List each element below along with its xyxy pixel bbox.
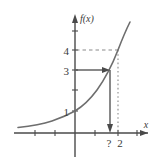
y-tick-label-3: 3 — [64, 65, 70, 77]
x-axis-arrowhead — [140, 130, 148, 136]
x-axis-title: x — [143, 119, 149, 130]
y-tick-label-1: 1 — [64, 106, 70, 118]
y-axis-arrowhead — [72, 14, 78, 23]
axes-group — [14, 14, 148, 157]
vertical-arrow-to-unknown-x — [107, 70, 113, 133]
vertical-arrowhead — [107, 124, 113, 133]
horizontal-arrow-from-3 — [76, 67, 110, 73]
x-tick-label-2: 2 — [117, 137, 123, 149]
y-tick-label-4: 4 — [64, 45, 70, 57]
exponential-function-figure: 4 3 1 ? 2 f(x) x — [0, 0, 166, 168]
graph-canvas: 4 3 1 ? 2 f(x) x — [0, 0, 166, 168]
function-curve — [18, 22, 130, 128]
y-axis-title: f(x) — [80, 13, 95, 25]
x-tick-label-unknown: ? — [107, 137, 112, 149]
